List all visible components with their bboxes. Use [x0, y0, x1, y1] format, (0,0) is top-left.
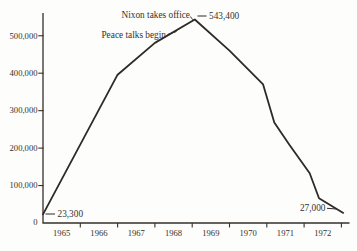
y-axis-label: 0 — [33, 217, 37, 227]
x-axis-label: 1965 — [53, 228, 70, 238]
y-axis-label: 200,000 — [10, 143, 38, 153]
x-axis-label: 1969 — [202, 228, 219, 238]
start-value-label: 23,300 — [58, 209, 84, 219]
end-value-label-leader — [327, 208, 337, 209]
x-axis-label: 1972 — [314, 228, 331, 238]
nixon-label: Nixon takes office — [121, 10, 190, 20]
y-axis-label: 400,000 — [10, 68, 38, 78]
x-axis-label: 1968 — [165, 228, 182, 238]
y-axis-label: 500,000 — [10, 31, 38, 41]
x-axis-label: 1966 — [90, 228, 108, 238]
vietnam-troop-levels-figure: 0100,000200,000300,000400,000500,0001965… — [0, 0, 357, 251]
peak-value-label: 543,400 — [209, 11, 240, 21]
x-axis-label: 1970 — [240, 228, 257, 238]
troop-levels-line-chart: 0100,000200,000300,000400,000500,0001965… — [0, 0, 357, 251]
x-axis-label: 1967 — [128, 228, 146, 238]
nixon-label-leader — [191, 17, 196, 20]
us-troop-levels-line — [43, 20, 343, 215]
axes — [43, 13, 350, 223]
y-axis-label: 100,000 — [10, 180, 38, 190]
x-axis-label: 1971 — [277, 228, 294, 238]
end-value-label: 27,000 — [300, 203, 326, 213]
peace-talks-label: Peace talks begin — [101, 30, 166, 40]
y-axis-label: 300,000 — [10, 105, 38, 115]
